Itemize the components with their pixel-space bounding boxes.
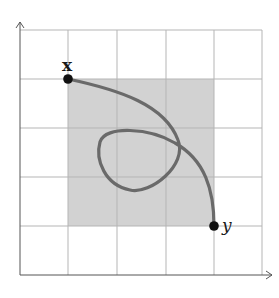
label-y: y [221,215,232,235]
point-y [209,221,219,231]
diagram-canvas: x y [0,0,279,298]
point-x [63,74,73,84]
label-x: x [62,55,73,75]
